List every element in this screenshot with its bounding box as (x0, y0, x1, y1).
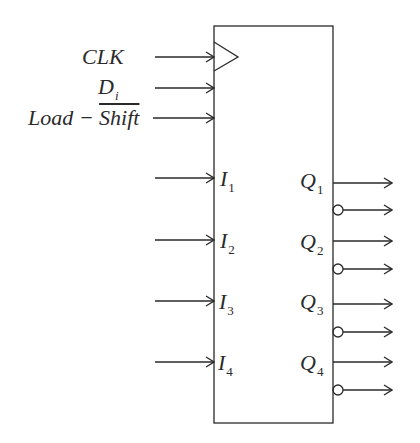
q4-label: Q4 (300, 352, 323, 383)
i1-label: I1 (220, 168, 235, 199)
i3-label: I3 (219, 291, 234, 322)
q2-not-bubble (333, 264, 343, 274)
di-label-sub: i (115, 88, 119, 103)
load-shift-label-shift: Shift (99, 105, 139, 130)
clock-triangle-icon (214, 42, 238, 71)
i2-label: I2 (220, 230, 235, 261)
load-shift-label: Load − Shift (28, 107, 139, 129)
q3-not-bubble (333, 327, 343, 337)
i4-label: I4 (218, 352, 233, 383)
q2-label: Q2 (300, 231, 323, 262)
q3-label: Q3 (300, 291, 323, 322)
clk-label: CLK (82, 46, 124, 68)
load-shift-label-load: Load − (28, 105, 99, 130)
q1-not-bubble (333, 205, 343, 215)
di-label-main: D (98, 74, 114, 99)
q1-label: Q1 (300, 170, 323, 201)
di-label: Di (98, 76, 119, 107)
shift-register-diagram (0, 0, 420, 443)
q4-not-bubble (333, 385, 343, 395)
